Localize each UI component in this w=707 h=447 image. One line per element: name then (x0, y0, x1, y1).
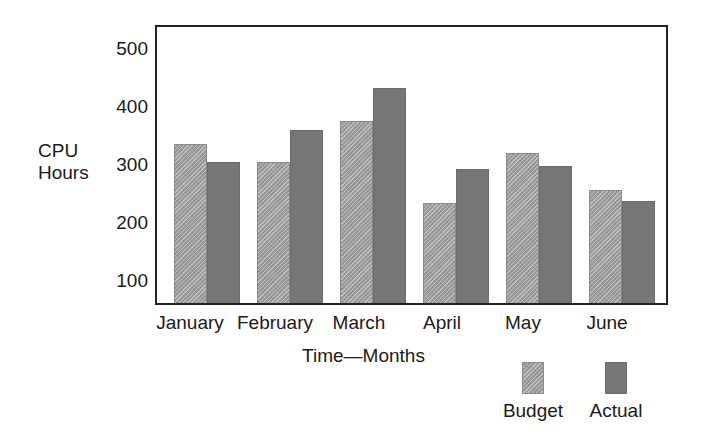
legend-entry-actual: Actual (576, 362, 656, 422)
bar-actual-march (373, 88, 406, 305)
legend: Budget Actual (493, 362, 683, 437)
x-tick-label-may: May (478, 312, 568, 334)
legend-swatch-budget-icon (522, 362, 544, 394)
plot-area (155, 25, 668, 305)
y-tick-label-500: 500 (100, 39, 148, 58)
bar-actual-april (456, 169, 489, 305)
bar-budget-march (340, 121, 373, 305)
y-tick-label-300: 300 (100, 155, 148, 174)
bar-budget-april (423, 203, 456, 305)
bar-budget-june (589, 190, 622, 305)
y-tick-label-200: 200 (100, 213, 148, 232)
legend-label-actual: Actual (576, 400, 656, 422)
legend-entry-budget: Budget (493, 362, 573, 422)
bar-chart: CPU Hours 500 400 300 200 100 (0, 0, 707, 447)
x-tick-label-april: April (397, 312, 487, 334)
legend-label-budget: Budget (493, 400, 573, 422)
y-tick-label-100: 100 (100, 271, 148, 290)
bar-actual-june (622, 201, 655, 305)
x-tick-label-june: June (562, 312, 652, 334)
x-tick-label-march: March (313, 312, 405, 334)
legend-swatch-actual-icon (605, 362, 627, 394)
bar-budget-january (174, 144, 207, 305)
bar-actual-february (290, 130, 323, 305)
bar-actual-january (207, 162, 240, 305)
bars-layer (157, 27, 666, 303)
y-tick-label-400: 400 (100, 97, 148, 116)
bar-budget-february (257, 162, 290, 305)
bar-actual-may (539, 166, 572, 305)
bar-budget-may (506, 153, 539, 305)
